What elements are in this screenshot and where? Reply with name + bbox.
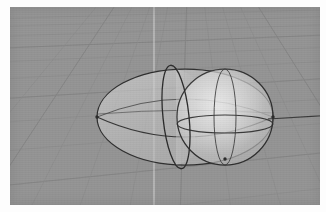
- ellipsoid-pole-point-left: [95, 115, 98, 118]
- viewport-canvas[interactable]: [10, 7, 320, 205]
- sphere-pole-point-bottom: [223, 157, 226, 160]
- screenshot-root: [0, 0, 326, 212]
- perspective-viewport[interactable]: [10, 7, 320, 205]
- object-sphere[interactable]: [177, 69, 273, 165]
- ellipsoid-pole-point-right: [271, 115, 274, 118]
- sphere-specular-highlight: [177, 69, 273, 165]
